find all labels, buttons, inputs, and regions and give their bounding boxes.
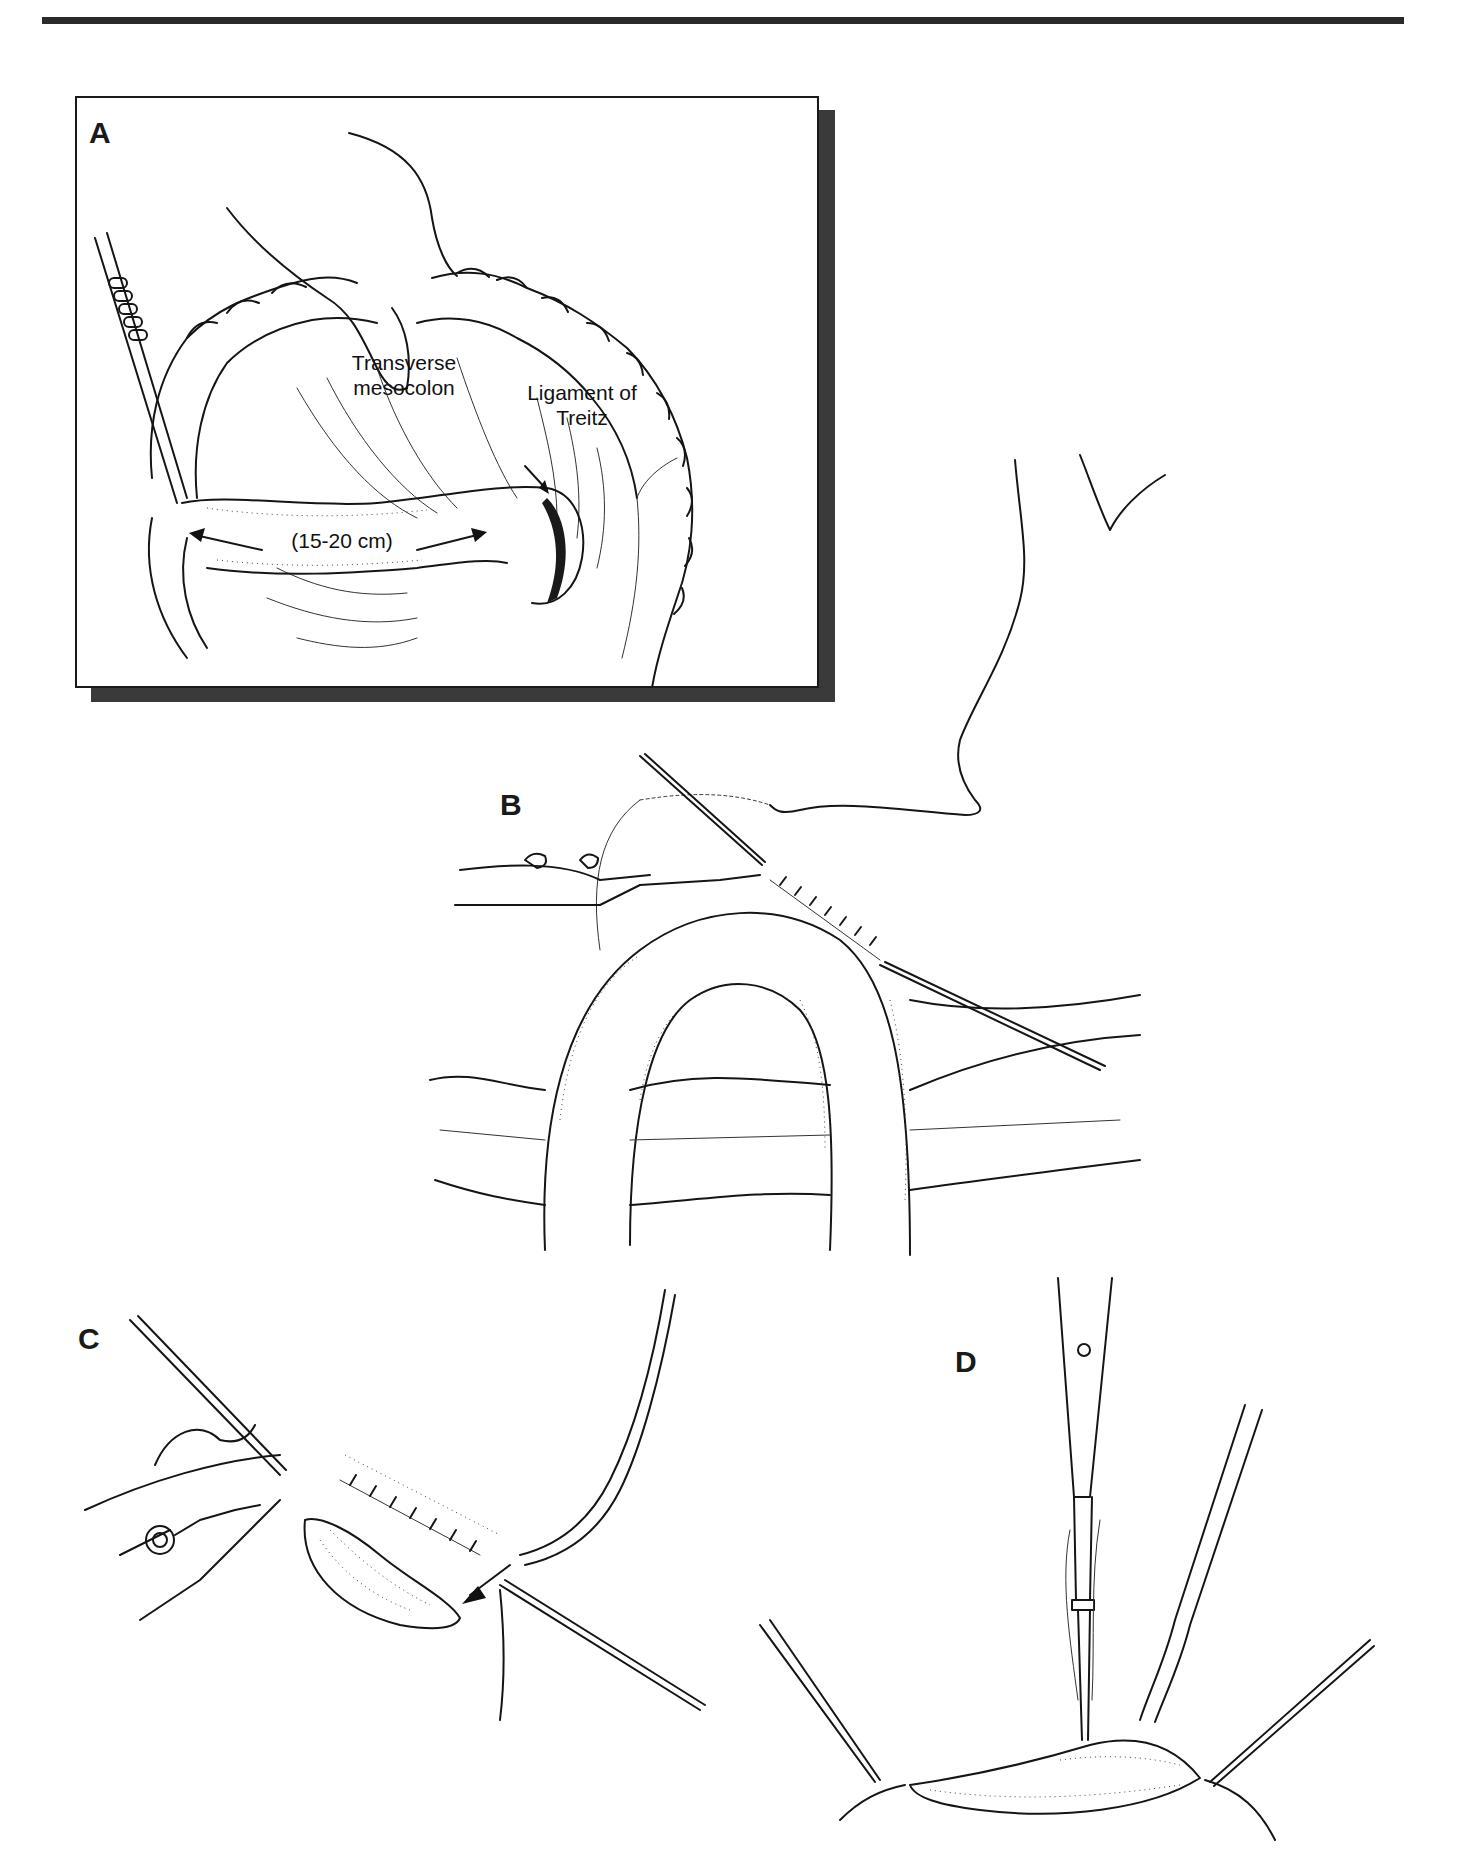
electrocautery-icon — [1058, 1278, 1112, 1497]
left-stay-suture — [760, 1620, 880, 1782]
opened-bowel — [910, 1741, 1200, 1814]
right-stay-suture — [1210, 1640, 1374, 1786]
panel-d-illustration — [0, 0, 1463, 1862]
forceps-icon — [1140, 1405, 1262, 1722]
